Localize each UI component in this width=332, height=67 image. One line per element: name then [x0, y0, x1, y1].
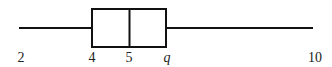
label-min: 2 — [18, 50, 25, 65]
label-max: 10 — [308, 50, 322, 65]
label-q1: 4 — [89, 50, 96, 65]
box-plot: 2 4 5 q 10 — [0, 0, 332, 67]
label-median: 5 — [126, 50, 133, 65]
label-q3: q — [164, 50, 171, 65]
